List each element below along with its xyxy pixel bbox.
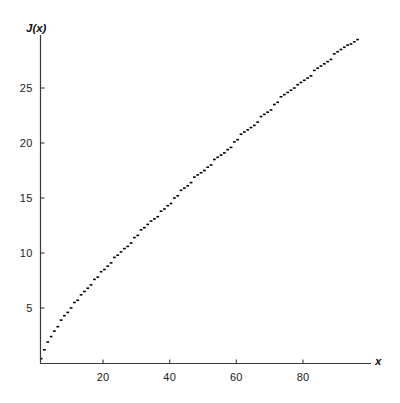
- x-axis-tick-label: 80: [297, 371, 310, 383]
- y-axis-tick-label: 5: [0, 302, 33, 314]
- x-axis-tick-label: 20: [97, 371, 110, 383]
- x-axis-tick-label: 40: [163, 371, 176, 383]
- y-axis-tick-label: 25: [0, 82, 33, 94]
- axis-lines: [41, 35, 372, 364]
- step-function-plot: [0, 0, 400, 403]
- x-axis-tick-label: 60: [230, 371, 243, 383]
- y-axis-tick-label: 10: [0, 247, 33, 259]
- x-axis-title: x: [375, 355, 381, 367]
- y-axis-tick-label: 15: [0, 192, 33, 204]
- y-axis-tick-label: 20: [0, 137, 33, 149]
- chart-figure: 510152025 20406080 J(x) x: [0, 0, 400, 403]
- step-curve: [41, 40, 359, 359]
- y-axis-title: J(x): [26, 22, 46, 34]
